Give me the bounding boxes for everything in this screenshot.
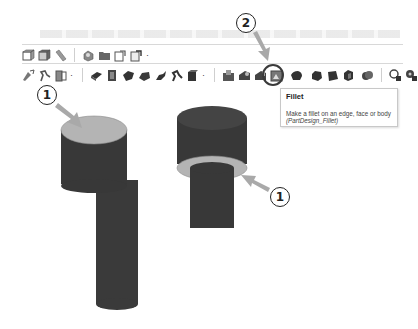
callout-1-right: 1	[270, 187, 290, 207]
tooltip-command: (PartDesign_Fillet)	[286, 117, 392, 124]
tooltip-description: Make a fillet on an edge, face or body	[286, 110, 392, 117]
callout-1-left: 1	[37, 85, 57, 105]
left-part[interactable]	[61, 116, 138, 310]
fillet-tooltip: Fillet Make a fillet on an edge, face or…	[280, 88, 398, 127]
callout-2: 2	[236, 13, 256, 33]
pointer-arrow	[241, 175, 270, 192]
right-part[interactable]	[177, 106, 247, 228]
pointer-arrow	[253, 31, 270, 61]
linear-pattern-icon[interactable]	[405, 69, 418, 82]
tooltip-title: Fillet	[286, 92, 392, 101]
